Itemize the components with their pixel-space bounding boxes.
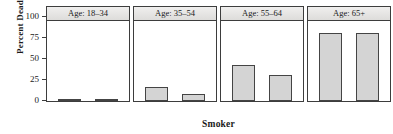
y-axis-tick-label: 25 — [30, 73, 42, 85]
bar-group — [134, 21, 216, 101]
y-axis-tick-label: 50 — [30, 52, 42, 64]
x-axis-tick-mark — [106, 101, 107, 102]
x-axis-tick-mark — [244, 101, 245, 102]
panel-age-35-54: Age: 35–54 Yes No — [133, 6, 217, 102]
panel-strip-label: Age: 65+ — [307, 6, 391, 20]
x-axis-ticks: Yes No — [134, 101, 216, 102]
x-axis-title: Smoker — [46, 119, 391, 129]
y-axis-tick: 50 — [30, 52, 46, 64]
bar-no — [269, 75, 292, 101]
y-axis: 100 75 50 25 0 — [0, 16, 46, 100]
panel-row: Age: 18–34 Yes No Age: 35–54 — [46, 6, 391, 102]
bar-group — [221, 21, 303, 101]
panel-plot-area: Yes No — [220, 20, 304, 102]
panel-age-55-64: Age: 55–64 Yes No — [220, 6, 304, 102]
x-axis-tick-mark — [70, 101, 71, 102]
panel-age-65-plus: Age: 65+ Yes No — [307, 6, 391, 102]
x-axis-tick-mark — [367, 101, 368, 102]
bar-yes — [145, 87, 168, 101]
y-axis-tick-label: 0 — [35, 94, 43, 106]
y-axis-tick: 100 — [26, 10, 47, 22]
y-axis-tick: 0 — [35, 94, 47, 106]
x-axis-ticks: Yes No — [47, 101, 129, 102]
bar-group — [47, 21, 129, 101]
bar-group — [308, 21, 390, 101]
y-axis-tick-label: 100 — [26, 10, 43, 22]
x-axis-tick-mark — [157, 101, 158, 102]
bar-no — [182, 94, 205, 101]
x-axis-tick-mark — [193, 101, 194, 102]
y-axis-tick: 25 — [30, 73, 46, 85]
x-axis-tick-mark — [280, 101, 281, 102]
panel-plot-area: Yes No — [307, 20, 391, 102]
panel-plot-area: Yes No — [46, 20, 130, 102]
y-axis-tick: 75 — [30, 31, 46, 43]
panel-strip-label: Age: 55–64 — [220, 6, 304, 20]
x-axis-tick-mark — [331, 101, 332, 102]
x-axis-ticks: Yes No — [221, 101, 303, 102]
bar-yes — [319, 33, 342, 101]
bar-yes — [232, 65, 255, 101]
panel-plot-area: Yes No — [133, 20, 217, 102]
y-axis-tick-label: 75 — [30, 31, 42, 43]
bar-no — [356, 33, 379, 101]
panel-strip-label: Age: 18–34 — [46, 6, 130, 20]
trellis-bar-chart: Percent Dead 100 75 50 25 0 Age: 18–34 — [0, 0, 393, 134]
panel-strip-label: Age: 35–54 — [133, 6, 217, 20]
panel-age-18-34: Age: 18–34 Yes No — [46, 6, 130, 102]
x-axis-ticks: Yes No — [308, 101, 390, 102]
